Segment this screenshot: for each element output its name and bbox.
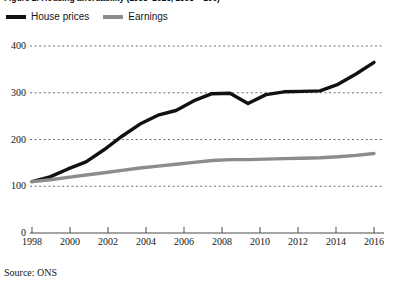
gridlines (30, 46, 384, 233)
x-axis-tick-label: 2000 (53, 236, 87, 247)
y-axis-tick-label: 400 (0, 40, 26, 51)
series-line-earnings (32, 154, 374, 182)
x-axis-tick-label: 2012 (281, 236, 315, 247)
x-axis-tick-label: 2004 (129, 236, 163, 247)
x-axis-tick-label: 2008 (205, 236, 239, 247)
series-line-house-prices (32, 62, 374, 181)
x-axis-tick-label: 2002 (91, 236, 125, 247)
axis-ticks (32, 227, 374, 233)
figure-container: Figure 2: Housing affordability (1998–20… (0, 0, 396, 284)
x-axis-tick-label: 2006 (167, 236, 201, 247)
x-axis-tick-label: 1998 (15, 236, 49, 247)
y-axis-tick-label: 300 (0, 87, 26, 98)
x-axis-tick-label: 2016 (357, 236, 391, 247)
x-axis-tick-label: 2014 (319, 236, 353, 247)
source-note: Source: ONS (4, 267, 57, 278)
x-axis-tick-label: 2010 (243, 236, 277, 247)
y-axis-tick-label: 200 (0, 134, 26, 145)
data-series-layer (32, 62, 374, 181)
y-axis-tick-label: 100 (0, 180, 26, 191)
